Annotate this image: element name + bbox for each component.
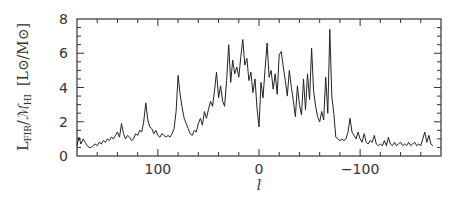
x-axis-tick-labels: 1000−100 xyxy=(145,161,380,177)
y-tick-label: 2 xyxy=(59,114,68,130)
y-tick-label: 4 xyxy=(59,80,68,96)
data-line xyxy=(77,29,433,147)
tick-marks xyxy=(77,19,441,156)
y-label-mass-sub: HI xyxy=(23,93,33,105)
y-axis-tick-labels: 02468 xyxy=(59,11,68,164)
y-tick-label: 8 xyxy=(59,11,68,27)
plot-area xyxy=(77,19,441,156)
x-tick-label: 100 xyxy=(145,161,172,177)
y-label-main: L xyxy=(15,142,31,151)
chart: 02468 1000−100 l LFIR/ℳHI[L⊙/M⊙] xyxy=(0,0,450,197)
y-label-main-sub: FIR xyxy=(23,125,33,142)
y-label-units: [L⊙/M⊙] xyxy=(15,23,31,86)
x-axis-label: l xyxy=(257,177,261,193)
y-tick-label: 6 xyxy=(59,45,68,61)
y-tick-label: 0 xyxy=(59,148,68,164)
x-tick-label: −100 xyxy=(341,161,379,177)
x-tick-label: 0 xyxy=(255,161,264,177)
plot-frame xyxy=(77,19,441,156)
svg-text:LFIR/ℳHI[L⊙/M⊙]: LFIR/ℳHI[L⊙/M⊙] xyxy=(15,23,33,151)
y-axis-label: LFIR/ℳHI[L⊙/M⊙] xyxy=(15,23,33,151)
